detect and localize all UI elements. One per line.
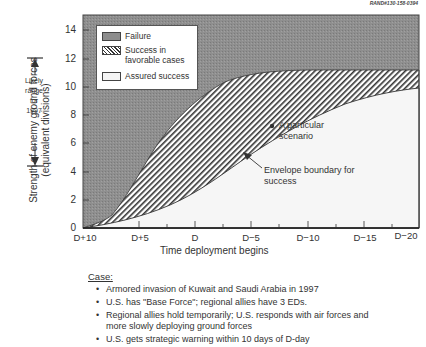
case-item: Regional allies hold temporarily; U.S. r… xyxy=(98,310,391,332)
scenario-label: A particular scenario xyxy=(279,120,324,142)
x-tick-d-plus-10: D+10 xyxy=(65,232,105,243)
x-tick-d-plus-5: D+5 xyxy=(120,232,160,243)
legend: Failure Success in favorable cases Assur… xyxy=(96,25,198,90)
case-item: U.S. has "Base Force"; regional allies h… xyxy=(98,297,391,308)
legend-item-assured: Assured success xyxy=(102,71,189,81)
scenario-point xyxy=(270,124,274,128)
legend-item-favorable: Success in favorable cases xyxy=(102,45,185,65)
x-tick-d-minus-10: D−10 xyxy=(288,232,328,243)
legend-item-failure: Failure xyxy=(102,31,151,41)
envelope-label: Envelope boundary for success xyxy=(264,165,355,187)
hatch-swatch-icon xyxy=(102,46,121,55)
plot-area xyxy=(0,0,426,242)
x-tick-d-minus-15: D−15 xyxy=(345,232,385,243)
x-tick-d-minus-20: D−20 xyxy=(386,230,426,241)
x-axis-title: Time deployment begins xyxy=(160,245,269,256)
assured-swatch-icon xyxy=(102,72,121,81)
case-title: Case: xyxy=(88,271,391,282)
case-notes: Case: Armored invasion of Kuwait and Sau… xyxy=(88,271,391,347)
case-item: U.S. gets strategic warning within 10 da… xyxy=(98,334,391,345)
case-item: Armored invasion of Kuwait and Saudi Ara… xyxy=(98,284,391,295)
x-tick-d: D xyxy=(175,232,215,243)
x-tick-d-minus-5: D−5 xyxy=(231,232,271,243)
failure-swatch-icon xyxy=(102,32,121,41)
